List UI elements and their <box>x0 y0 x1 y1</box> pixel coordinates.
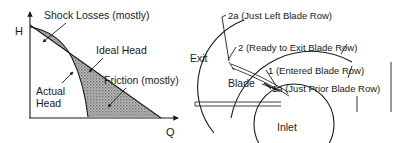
ideal-head-label: Ideal Head <box>96 44 147 56</box>
blade-label: Blade <box>228 77 255 89</box>
inlet-label: Inlet <box>277 121 297 133</box>
station-1-label: 1 (Entered Blade Row) <box>268 65 364 76</box>
exit-label: Exit <box>190 52 208 64</box>
actual-head-label-line2: Head <box>36 97 61 109</box>
actual-head-label-line1: Actual <box>36 85 65 97</box>
station-2a-label: 2a (Just Left Blade Row) <box>228 10 332 21</box>
x-axis-label: Q <box>166 126 175 138</box>
figure-svg: H Q Shock Losses (mostly) Ideal Head Fri… <box>0 0 413 143</box>
station-2-label: 2 (Ready to Exit Blade Row) <box>238 42 357 53</box>
figure-container: H Q Shock Losses (mostly) Ideal Head Fri… <box>0 0 413 143</box>
station-1a-label: 1a (Just Prior Blade Row) <box>272 83 380 94</box>
friction-label: Friction (mostly) <box>104 74 179 86</box>
y-axis-label: H <box>15 25 23 37</box>
shock-losses-label: Shock Losses (mostly) <box>44 9 150 21</box>
